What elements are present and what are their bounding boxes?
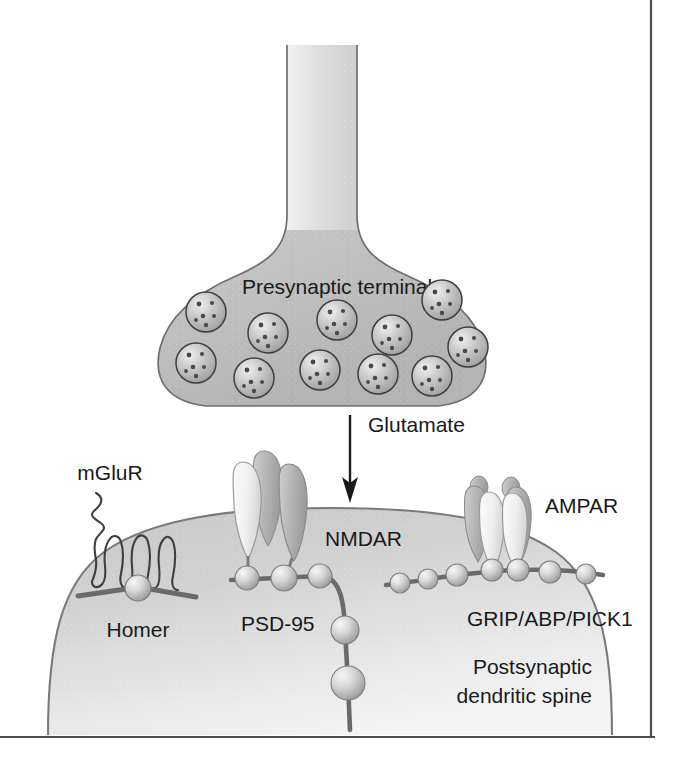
synaptic-vesicle: [317, 300, 357, 340]
grip-bead: [446, 564, 468, 586]
synaptic-vesicle: [186, 292, 226, 332]
postsynaptic-label-line2: dendritic spine: [457, 684, 592, 707]
presynaptic-neuron: Presynaptic terminal: [150, 40, 500, 420]
synaptic-vesicle: [448, 327, 488, 367]
psd95-bead: [271, 565, 297, 591]
psd95-label: PSD-95: [241, 612, 315, 635]
ampar-label: AMPAR: [545, 494, 618, 517]
nmdar-label: NMDAR: [325, 527, 402, 550]
psd95-bead: [308, 564, 332, 588]
figure-root: Presynaptic terminal: [0, 0, 674, 764]
mglur-label: mGluR: [77, 461, 142, 484]
glutamate-label: Glutamate: [368, 413, 465, 436]
glutamate-arrow-group: Glutamate: [342, 413, 465, 503]
postsynaptic-label-line1: Postsynaptic: [473, 655, 592, 678]
grip-abp-pick1-label: GRIP/ABP/PICK1: [467, 607, 633, 630]
grip-bead: [390, 573, 410, 593]
presynaptic-terminal-label: Presynaptic terminal: [242, 275, 432, 298]
psd95-bead: [331, 666, 365, 700]
grip-bead: [507, 559, 529, 581]
grip-bead: [418, 569, 438, 589]
synapse-diagram: Presynaptic terminal: [0, 0, 674, 764]
synaptic-vesicle: [300, 350, 340, 390]
synaptic-vesicle: [412, 356, 452, 396]
synaptic-vesicle: [422, 280, 462, 320]
grip-bead: [576, 564, 596, 584]
grip-bead: [481, 559, 503, 581]
synaptic-vesicle: [248, 313, 288, 353]
synaptic-vesicle: [176, 343, 216, 383]
synaptic-vesicle: [372, 315, 412, 355]
psd95-bead: [331, 616, 359, 644]
synaptic-vesicle: [358, 354, 398, 394]
psd95-bead: [235, 566, 259, 590]
homer-bead: [125, 575, 151, 601]
grip-bead: [539, 561, 561, 583]
synaptic-vesicle: [234, 358, 274, 398]
homer-label: Homer: [106, 618, 169, 641]
